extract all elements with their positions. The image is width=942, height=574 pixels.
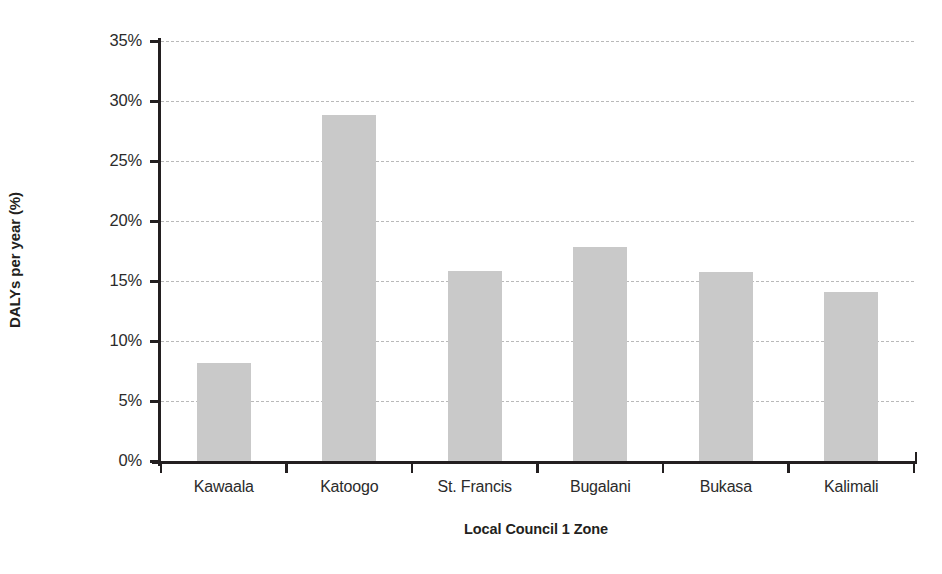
y-axis-tick-label: 30% <box>84 91 142 110</box>
bar <box>699 272 753 462</box>
bar <box>573 247 627 462</box>
x-axis-category-label: Kawaala <box>161 478 287 496</box>
y-axis-tick-label: 10% <box>84 331 142 350</box>
x-axis-tick <box>285 462 288 473</box>
gridline <box>161 401 914 402</box>
gridline <box>161 341 914 342</box>
x-axis-tick <box>160 462 163 473</box>
y-axis-tick-label: 20% <box>84 211 142 230</box>
gridline <box>161 41 914 42</box>
bar <box>448 271 502 462</box>
x-axis-category-label: St. Francis <box>412 478 538 496</box>
bar <box>824 292 878 461</box>
y-axis-tick-label: 15% <box>84 271 142 290</box>
x-axis-category-label: Bugalani <box>538 478 664 496</box>
y-axis-tick-label: 0% <box>84 451 142 470</box>
bar-chart-figure: DALYs per year (%) 0%5%10%15%20%25%30%35… <box>0 0 942 574</box>
x-axis-category-label: Bukasa <box>663 478 789 496</box>
gridline <box>161 221 914 222</box>
x-axis-category-label: Kalimali <box>789 478 915 496</box>
x-axis-tick <box>411 462 414 473</box>
y-axis-top-cap <box>152 41 161 44</box>
x-axis-line <box>152 461 917 464</box>
x-axis-tick <box>787 462 790 473</box>
y-axis-tick-label: 35% <box>84 31 142 50</box>
bar <box>322 115 376 462</box>
gridline <box>161 161 914 162</box>
x-axis-category-label: Katoogo <box>287 478 413 496</box>
x-axis-tick <box>913 462 916 473</box>
y-axis-tick-label: 25% <box>84 151 142 170</box>
y-axis-title: DALYs per year (%) <box>0 40 28 480</box>
y-axis-tick-label: 5% <box>84 391 142 410</box>
x-axis-tick <box>536 462 539 473</box>
y-axis-line <box>158 38 161 466</box>
gridline <box>161 101 914 102</box>
gridline <box>161 281 914 282</box>
bar <box>197 363 251 461</box>
x-axis-title: Local Council 1 Zone <box>160 521 912 537</box>
x-axis-tick <box>662 462 665 473</box>
y-axis-tick-labels-group: 0%5%10%15%20%25%30%35% <box>84 0 142 574</box>
